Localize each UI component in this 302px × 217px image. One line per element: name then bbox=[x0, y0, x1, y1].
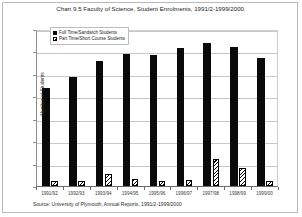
bar-group bbox=[91, 31, 118, 186]
bar-full-time bbox=[257, 58, 265, 186]
x-tick-mark bbox=[197, 187, 198, 190]
bar-part-time bbox=[132, 179, 139, 186]
bar-part-time bbox=[159, 181, 166, 186]
x-tick-mark bbox=[251, 187, 252, 190]
plot-area: Number of Students bbox=[36, 30, 278, 187]
y-tick-mark-2500 bbox=[33, 75, 36, 76]
bar-full-time bbox=[177, 48, 185, 186]
bar-full-time bbox=[69, 77, 77, 186]
x-tick-mark bbox=[144, 187, 145, 190]
x-tick-mark bbox=[63, 187, 64, 190]
x-tick-mark bbox=[224, 187, 225, 190]
bar-full-time bbox=[123, 54, 131, 186]
bar-group bbox=[171, 31, 198, 186]
bar-full-time bbox=[230, 47, 238, 187]
bar-group bbox=[198, 31, 225, 186]
x-tick-mark bbox=[170, 187, 171, 190]
x-tick-mark bbox=[117, 187, 118, 190]
bar-group bbox=[118, 31, 145, 186]
x-tick-mark bbox=[36, 187, 37, 190]
x-tick-label-1999-00: 1999/00 bbox=[245, 191, 285, 197]
x-tick-mark bbox=[90, 187, 91, 190]
chart-figure: Chart 9.5 Faculty of Science, Student En… bbox=[0, 0, 302, 217]
bar-part-time bbox=[213, 159, 220, 186]
legend-swatch-part-time-icon bbox=[53, 37, 57, 41]
bar-full-time bbox=[96, 61, 104, 186]
legend-item: Part Time/Short Course Students bbox=[53, 36, 125, 42]
bar-group bbox=[225, 31, 252, 186]
y-tick-mark-2000 bbox=[33, 97, 36, 98]
bar-full-time bbox=[203, 43, 211, 186]
y-tick-mark-500 bbox=[33, 165, 36, 166]
bar-part-time bbox=[105, 174, 112, 186]
bar-part-time bbox=[239, 168, 246, 186]
source-note: Source: University of Plymouth, Annual R… bbox=[33, 201, 182, 208]
bar-group bbox=[64, 31, 91, 186]
y-axis-title: Number of Students bbox=[40, 34, 46, 154]
y-tick-mark-1000 bbox=[33, 142, 36, 143]
bar-part-time bbox=[186, 180, 193, 186]
legend-label: Part Time/Short Course Students bbox=[59, 36, 125, 42]
bar-part-time bbox=[78, 181, 85, 186]
x-tick-mark bbox=[278, 187, 279, 190]
bar-group bbox=[252, 31, 279, 186]
bar-group bbox=[145, 31, 172, 186]
y-tick-mark-3000 bbox=[33, 52, 36, 53]
y-tick-mark-1500 bbox=[33, 120, 36, 121]
y-tick-mark-3500 bbox=[33, 30, 36, 31]
chart-title: Chart 9.5 Faculty of Science, Student En… bbox=[0, 5, 302, 13]
bar-part-time bbox=[51, 181, 58, 186]
legend-swatch-full-time-icon bbox=[53, 31, 57, 35]
bar-full-time bbox=[150, 55, 158, 186]
chart-legend: Full Time/Sandwich StudentsPart Time/Sho… bbox=[50, 27, 129, 45]
bar-part-time bbox=[266, 181, 273, 186]
